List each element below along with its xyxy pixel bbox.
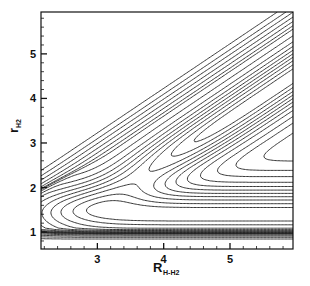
contour-line (41, 22, 293, 235)
y-tick-label: 2 (30, 182, 36, 194)
y-tick-label: 3 (30, 137, 36, 149)
y-tick-label: 1 (30, 226, 36, 238)
x-axis-ticks: 345 (44, 243, 283, 265)
contour-line (87, 69, 294, 221)
contour-plot: 345 12345 R H-H2 r H2 (0, 0, 310, 286)
x-tick-label: 5 (227, 253, 233, 265)
y-tick-label: 5 (30, 48, 36, 60)
contour-lines (41, 12, 293, 239)
contour-line (41, 17, 293, 235)
y-axis-label: r H2 (6, 119, 22, 133)
x-axis-label-subscript: H-H2 (163, 269, 179, 276)
contour-line (41, 26, 293, 234)
y-axis-label-subscript: H2 (15, 119, 22, 128)
x-tick-label: 3 (94, 253, 100, 265)
x-axis-label-main: R (153, 260, 163, 275)
y-tick-label: 4 (30, 92, 37, 104)
